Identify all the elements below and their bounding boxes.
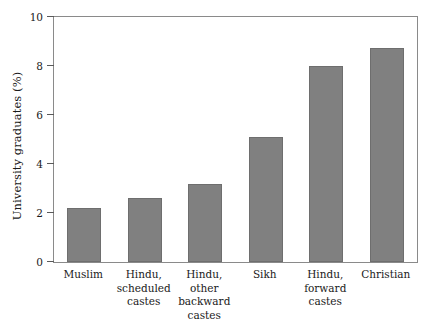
bar xyxy=(249,137,283,262)
y-axis-tick: 0 xyxy=(47,261,54,262)
plot-area: 0246810 xyxy=(53,16,418,263)
bar xyxy=(309,66,343,262)
y-axis-tick-label: 6 xyxy=(36,109,43,120)
y-axis-tick: 2 xyxy=(47,212,54,213)
x-axis-tick-labels: MuslimHindu,scheduledcastesHindu,otherba… xyxy=(53,268,418,326)
bar xyxy=(370,48,404,262)
bar xyxy=(128,198,162,262)
x-axis-tick-label: Sikh xyxy=(235,268,296,282)
y-axis-tick: 10 xyxy=(47,16,54,17)
y-axis-tick: 6 xyxy=(47,114,54,115)
bar xyxy=(188,184,222,262)
y-axis-tick-label: 8 xyxy=(36,60,43,71)
x-axis-tick-label: Hindu,otherbackwardcastes xyxy=(174,268,235,322)
x-axis-label-line: Muslim xyxy=(53,268,114,282)
x-axis-label-line: backward xyxy=(174,295,235,309)
x-axis-tick-label: Hindu,scheduledcastes xyxy=(114,268,175,309)
y-axis-title: University graduates (%) xyxy=(6,12,28,280)
y-axis-tick-label: 0 xyxy=(36,256,43,267)
y-axis-tick-label: 2 xyxy=(36,207,43,218)
bar-column xyxy=(309,17,343,262)
y-axis-tick: 4 xyxy=(47,163,54,164)
x-axis-label-line: Hindu, xyxy=(114,268,175,282)
x-axis-label-line: Hindu, xyxy=(174,268,235,282)
bar-column xyxy=(128,17,162,262)
x-axis-label-line: scheduled xyxy=(114,282,175,296)
x-axis-label-line: other xyxy=(174,282,235,296)
bar-series xyxy=(54,17,417,262)
x-axis-label-line: Christian xyxy=(356,268,417,282)
bar xyxy=(67,208,101,262)
y-axis-tick: 8 xyxy=(47,65,54,66)
x-axis-label-line: Hindu, xyxy=(295,268,356,282)
x-axis-label-line: castes xyxy=(114,295,175,309)
x-axis-tick-label: Hindu,forwardcastes xyxy=(295,268,356,309)
x-axis-label-line: castes xyxy=(174,309,235,323)
x-axis-label-line: Sikh xyxy=(235,268,296,282)
bar-column xyxy=(188,17,222,262)
bar-column xyxy=(67,17,101,262)
y-axis-tick-label: 4 xyxy=(36,158,43,169)
x-axis-tick-label: Muslim xyxy=(53,268,114,282)
x-axis-label-line: forward xyxy=(295,282,356,296)
y-axis-tick-label: 10 xyxy=(30,11,43,22)
bar-column xyxy=(249,17,283,262)
bar-column xyxy=(370,17,404,262)
x-axis-label-line: castes xyxy=(295,295,356,309)
bar-chart-figure: University graduates (%) 0246810 MuslimH… xyxy=(0,0,436,328)
x-axis-tick-label: Christian xyxy=(356,268,417,282)
